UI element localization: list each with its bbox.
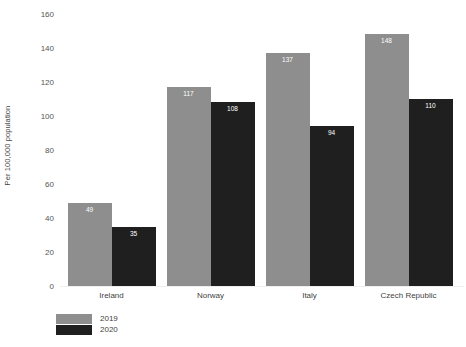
y-axis-tick: 80 [18, 146, 54, 155]
bar-czech-republic-2019[interactable]: 148 [365, 34, 409, 286]
y-axis-tick: 40 [18, 214, 54, 223]
bar-pair: 148110 [365, 34, 453, 286]
bar-norway-2020[interactable]: 108 [211, 102, 255, 286]
bar-value-label: 117 [167, 91, 211, 98]
bar-group: 4935 [62, 14, 161, 286]
y-axis-title-label: Per 100,000 population [4, 105, 13, 185]
bar-value-label: 94 [310, 130, 354, 137]
bar-group: 13794 [260, 14, 359, 286]
y-axis-tick-labels: 160140120100806040200 [18, 14, 58, 286]
y-axis-tick: 20 [18, 248, 54, 257]
bar-ireland-2020[interactable]: 35 [112, 227, 156, 287]
x-axis-category-labels: IrelandNorwayItalyCzech Republic [62, 291, 458, 300]
y-axis-tick: 100 [18, 112, 54, 121]
legend-label-2019: 2019 [100, 314, 118, 323]
bar-value-label: 137 [266, 57, 310, 64]
chart-legend: 20192020 [56, 313, 118, 335]
bar-italy-2019[interactable]: 137 [266, 53, 310, 286]
y-axis-tick: 160 [18, 10, 54, 19]
bar-groups: 493511710813794148110 [62, 14, 458, 286]
category-label-italy: Italy [260, 291, 359, 300]
y-axis-tick: 140 [18, 44, 54, 53]
bar-value-label: 35 [112, 231, 156, 238]
category-label-ireland: Ireland [62, 291, 161, 300]
bar-group: 148110 [359, 14, 458, 286]
y-axis-title: Per 100,000 population [0, 0, 16, 290]
bar-italy-2020[interactable]: 94 [310, 126, 354, 286]
bar-czech-republic-2020[interactable]: 110 [409, 99, 453, 286]
bar-group: 117108 [161, 14, 260, 286]
bar-chart: Per 100,000 population 16014012010080604… [0, 0, 466, 347]
bar-pair: 117108 [167, 87, 255, 286]
bar-norway-2019[interactable]: 117 [167, 87, 211, 286]
legend-item-2019[interactable]: 2019 [56, 313, 118, 324]
legend-item-2020[interactable]: 2020 [56, 324, 118, 335]
bar-value-label: 108 [211, 106, 255, 113]
bar-value-label: 49 [68, 207, 112, 214]
y-axis-tick: 0 [18, 282, 54, 291]
category-label-czech-republic: Czech Republic [359, 291, 458, 300]
bar-pair: 13794 [266, 53, 354, 286]
legend-swatch-2019 [56, 314, 92, 324]
bar-pair: 4935 [68, 203, 156, 286]
legend-label-2020: 2020 [100, 325, 118, 334]
bar-value-label: 110 [409, 103, 453, 110]
bar-value-label: 148 [365, 38, 409, 45]
y-axis-tick: 60 [18, 180, 54, 189]
category-label-norway: Norway [161, 291, 260, 300]
y-axis-tick: 120 [18, 78, 54, 87]
legend-swatch-2020 [56, 325, 92, 335]
bar-ireland-2019[interactable]: 49 [68, 203, 112, 286]
